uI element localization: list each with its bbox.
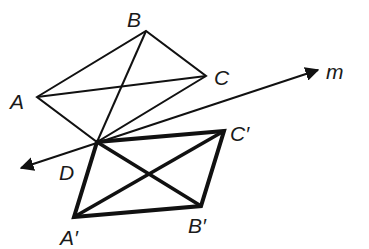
- quadrilateral-abcd: [37, 31, 206, 142]
- label-b-prime: B′: [188, 214, 207, 237]
- quadrilateral-a-prime-b-prime-c-prime-d: [74, 131, 224, 217]
- label-a: A: [8, 90, 24, 113]
- label-c-prime: C′: [230, 122, 250, 145]
- label-a-prime: A′: [58, 226, 79, 249]
- diagonal-bd: [97, 31, 146, 142]
- label-c: C: [214, 66, 230, 89]
- label-m: m: [326, 60, 344, 83]
- label-d: D: [59, 161, 74, 184]
- label-b: B: [127, 8, 141, 31]
- reflection-diagram: m A B C D A′ B′ C′: [0, 0, 369, 249]
